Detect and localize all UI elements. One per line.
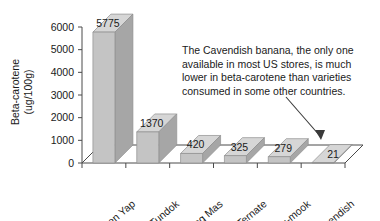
y-tick-label: 5000 [51,43,75,55]
bar-front-face [268,157,290,163]
bar-value-label: 5775 [96,17,120,29]
bar-front-face [224,156,246,163]
x-category-label: Pisang Mas [175,197,225,221]
bar-front-face [137,132,159,163]
x-axis-ticks [82,163,345,168]
x-category-label: Ternate [234,197,269,221]
bar-front-face [181,153,203,163]
beta-carotene-bar-chart: Beta-carotene (ug/100g) 0100020003000400… [0,0,380,221]
chart-canvas: Beta-carotene (ug/100g) 0100020003000400… [0,0,380,221]
bar-value-label: 1370 [140,117,164,129]
callout-arrow-line [286,97,320,136]
bar-uht-en-yap [93,14,133,163]
callout-line: available in most US stores, is much [182,58,351,70]
bar-value-label: 21 [327,148,339,160]
y-tick-label: 1000 [51,134,75,146]
x-axis-category-labels: Uht en YapTundokPisang MasTernateHug-moo… [90,197,357,221]
callout-line: lower in beta-carotene than varieties [182,71,351,83]
x-category-label: Uht en Yap [90,197,137,221]
y-tick-label: 2000 [51,111,75,123]
callout-line: consumed in some other countries. [182,85,345,97]
callout-arrow [286,97,325,140]
bar-value-label: 279 [274,142,292,154]
x-category-label: Tundok [147,197,182,221]
bar-front-face [93,32,115,163]
y-axis-title-line1: Beta-carotene [9,59,21,125]
bar-value-label: 325 [231,141,249,153]
y-axis-title: Beta-carotene (ug/100g) [9,59,34,125]
y-tick-label: 0 [68,157,74,169]
y-axis: 0100020003000400050006000 [51,21,82,169]
y-tick-label: 3000 [51,89,75,101]
y-tick-label: 6000 [51,21,75,33]
cavendish-callout-text: The Cavendish banana, the only oneavaila… [182,44,354,97]
x-category-label: Hug-mook [268,197,313,221]
callout-line: The Cavendish banana, the only one [182,44,354,56]
y-tick-label: 4000 [51,66,75,78]
bar-side-face [115,14,133,163]
y-axis-title-line2: (ug/100g) [22,70,34,115]
bar-value-label: 420 [187,138,205,150]
x-category-label: Cavendish [311,197,357,221]
callout-arrow-head [315,130,325,140]
